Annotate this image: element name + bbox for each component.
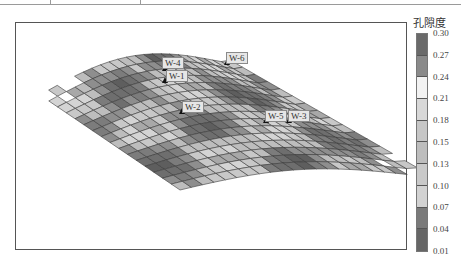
well-label-w1: W-1 <box>166 70 188 82</box>
colorbar-tick: 0.13 <box>433 159 449 169</box>
colorbar-tick: 0.01 <box>433 246 449 256</box>
colorbar-segment <box>417 186 427 208</box>
colorbar-segment <box>417 208 427 230</box>
porosity-surface <box>0 0 461 266</box>
colorbar-tick: 0.18 <box>433 115 449 125</box>
well-label-w4: W-4 <box>162 57 184 69</box>
colorbar-segment <box>417 142 427 164</box>
colorbar-tick: 0.24 <box>433 72 449 82</box>
colorbar-segment <box>417 56 427 78</box>
colorbar-tick: 0.07 <box>433 202 449 212</box>
surface-cell <box>49 85 67 96</box>
well-label-w3: W-3 <box>288 110 310 122</box>
colorbar-segment <box>417 164 427 186</box>
colorbar-segment <box>417 34 427 56</box>
colorbar-tick: 0.10 <box>433 181 449 191</box>
colorbar-segment <box>417 121 427 143</box>
colorbar-segment <box>417 99 427 121</box>
colorbar <box>416 33 428 252</box>
well-label-w6: W-6 <box>226 52 248 64</box>
colorbar-tick: 0.27 <box>433 50 449 60</box>
well-label-w5: W-5 <box>265 110 287 122</box>
well-label-w2: W-2 <box>182 101 204 113</box>
colorbar-tick: 0.15 <box>433 137 449 147</box>
colorbar-segment <box>417 77 427 99</box>
colorbar-tick: 0.04 <box>433 224 449 234</box>
colorbar-tick: 0.30 <box>433 28 449 38</box>
colorbar-segment <box>417 229 427 251</box>
colorbar-tick: 0.21 <box>433 93 449 103</box>
